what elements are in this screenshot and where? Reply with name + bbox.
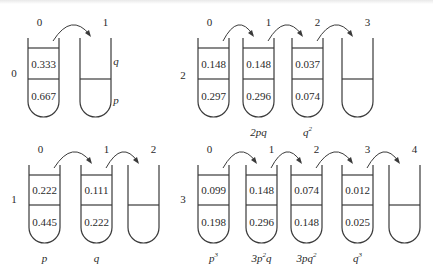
tube-outline — [342, 165, 373, 243]
panel-generation-1: 10.2220.4450p0.1110.2221q2 — [11, 143, 159, 264]
upper-value: 0.148 — [249, 184, 274, 196]
lower-value: 0.297 — [201, 90, 226, 102]
tube-index-label: 2 — [314, 143, 320, 155]
genotype-label: q — [94, 252, 100, 264]
panel-generation-3: 30.0990.1980p30.1480.29613p2q0.0740.1482… — [180, 143, 420, 264]
panel-generation-2: 20.1480.29700.1480.29612pq0.0370.0742q23 — [180, 16, 373, 138]
tube-empty: 3 — [342, 16, 373, 117]
tube-index-label: 2 — [151, 143, 157, 155]
tube-outline — [291, 165, 322, 243]
panel-generation-0: 00.3330.66701qp — [11, 16, 119, 117]
tube-index-label: 0 — [37, 16, 43, 28]
upper-value: 0.012 — [345, 184, 370, 196]
upper-value: 0.074 — [294, 184, 319, 196]
tube-outline — [292, 38, 323, 117]
upper-value: 0.222 — [32, 184, 57, 196]
lower-value: 0.025 — [345, 216, 370, 228]
arrowhead-icon — [394, 157, 400, 164]
tube-index-label: 4 — [412, 143, 418, 155]
lower-value: 0.074 — [295, 90, 320, 102]
lower-value: 0.222 — [84, 216, 109, 228]
lower-value: 0.445 — [32, 216, 57, 228]
tube-index-label: 0 — [38, 143, 44, 155]
tube-index-label: 3 — [365, 143, 371, 155]
transition-arrow — [268, 25, 302, 41]
tube-index-label: 1 — [104, 143, 110, 155]
arrowhead-icon — [297, 30, 303, 37]
lower-value: 0.296 — [246, 90, 271, 102]
upper-value: 0.333 — [31, 58, 56, 70]
genotype-label: q3 — [353, 251, 363, 264]
row-label: 2 — [180, 69, 186, 81]
genotype-label: 3pq2 — [296, 251, 318, 264]
tube-index-label: 2 — [315, 16, 321, 28]
arrowhead-icon — [251, 157, 257, 164]
allele-label-p: p — [112, 94, 119, 106]
tube-outline — [198, 165, 229, 243]
tube-outline — [246, 165, 277, 243]
upper-value: 0.111 — [85, 184, 109, 196]
arrowhead-icon — [248, 30, 254, 37]
tube-outline — [81, 165, 112, 243]
allele-label-q: q — [113, 55, 119, 67]
arrowhead-icon — [133, 157, 139, 164]
arrowhead-icon — [296, 157, 302, 164]
genotype-label: 2pq — [250, 126, 267, 138]
transition-arrow — [223, 152, 256, 168]
tube-index-label: 1 — [103, 16, 109, 28]
tube-index-label: 1 — [266, 16, 272, 28]
tube-empty: 1 — [80, 16, 111, 117]
tube-index-label: 1 — [269, 143, 275, 155]
genotype-label: q2 — [303, 125, 313, 138]
genotype-label: p3 — [208, 251, 219, 264]
tube-index-label: 3 — [365, 16, 371, 28]
tube-outline — [342, 38, 373, 117]
upper-value: 0.037 — [295, 58, 320, 70]
row-label: 1 — [11, 193, 17, 205]
tube-index-label: 0 — [207, 16, 213, 28]
tube-empty: 2 — [128, 143, 159, 243]
genotype-label: 3p2q — [251, 251, 273, 264]
tube-outline — [389, 165, 420, 243]
tube: 0.2220.4450p — [29, 143, 92, 264]
row-label: 3 — [180, 193, 186, 205]
tube-outline — [198, 38, 229, 117]
tube-outline — [29, 165, 60, 243]
arrowhead-icon — [347, 30, 353, 37]
tube-empty: 4 — [389, 143, 420, 243]
tube-diagram: 00.3330.66701qp20.1480.29700.1480.29612p… — [0, 0, 433, 272]
transition-arrow — [317, 25, 352, 41]
tube-outline — [243, 38, 274, 117]
tube: 0.3330.6670 — [28, 16, 91, 117]
lower-value: 0.198 — [201, 216, 226, 228]
tube-outline — [80, 38, 111, 117]
tube-index-label: 0 — [207, 143, 213, 155]
upper-value: 0.099 — [201, 184, 226, 196]
upper-value: 0.148 — [246, 58, 271, 70]
lower-value: 0.296 — [249, 216, 274, 228]
row-label: 0 — [11, 67, 17, 79]
lower-value: 0.667 — [31, 90, 56, 102]
tube: 0.0990.1980p3 — [198, 143, 257, 264]
lower-value: 0.148 — [294, 216, 319, 228]
tube-outline — [128, 165, 159, 243]
upper-value: 0.148 — [201, 58, 226, 70]
tube-outline — [28, 38, 59, 117]
genotype-label: p — [41, 252, 48, 264]
